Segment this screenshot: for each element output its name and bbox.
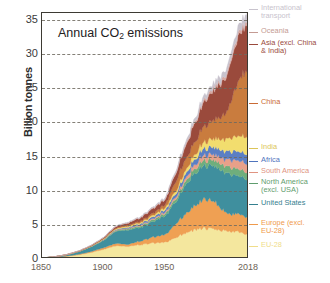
legend-item[interactable]: Oceania [249,27,289,35]
y-tick-label: 5 [12,218,38,230]
chart-title-subscript: 2 [119,31,124,41]
gridline [42,157,247,158]
legend-item[interactable]: China [249,98,280,106]
legend-item[interactable]: Asia (excl. China & India) [249,39,316,56]
y-tick-label: 30 [12,47,38,59]
legend-leader-line [249,246,258,247]
legend-item[interactable]: South America [249,167,309,175]
stacked-area-series [42,13,248,258]
chart-title-suffix: emissions [124,26,183,40]
legend-item[interactable]: United States [249,199,305,207]
chart-title: Annual CO2 emissions [58,26,183,40]
x-tick-label: 1900 [93,262,113,272]
legend-label: North America (excl. USA) [258,178,308,195]
y-tick-label: 20 [12,115,38,127]
gridline [42,88,247,89]
legend-leader-line [249,103,258,104]
x-tick-label: 1950 [154,262,174,272]
x-tick-label: 1850 [31,262,51,272]
legend-leader-line [249,172,258,173]
legend-label: Oceania [258,27,289,35]
legend-item[interactable]: Africa [249,156,280,164]
y-tick-label: 35 [12,13,38,25]
gridline [42,225,247,226]
legend-leader-line [249,44,258,45]
legend-item[interactable]: EU-28 [249,241,282,249]
legend-item[interactable]: North America (excl. USA) [249,178,308,195]
gridline [42,54,247,55]
gridline [42,20,247,21]
gridline [42,191,247,192]
legend-label: International transport [258,4,302,21]
legend-label: United States [258,199,305,207]
legend-label: India [258,143,277,151]
legend-leader-line [249,32,258,33]
legend-label: Europe (excl. EU-28) [258,219,305,236]
legend-leader-line [249,183,258,184]
legend-leader-line [249,161,258,162]
y-tick-label: 15 [12,150,38,162]
legend-label: Africa [258,156,280,164]
y-tick-label: 10 [12,184,38,196]
y-tick-label: 25 [12,81,38,93]
legend-label: Asia (excl. China & India) [258,39,316,56]
legend-leader-line [249,204,258,205]
co2-emissions-chart: Billion tonnes 05101520253035 Annual CO2… [0,0,330,283]
legend-leader-line [249,224,258,225]
legend-item[interactable]: International transport [249,4,302,21]
chart-title-text: Annual CO [58,26,119,40]
legend-leader-line [249,9,258,10]
legend-label: South America [258,167,309,175]
legend-label: China [258,98,280,106]
y-axis-ticks: 05101520253035 [8,0,38,283]
legend-label: EU-28 [258,241,282,249]
gridline [42,122,247,123]
chart-legend: International transportOceaniaAsia (excl… [249,0,330,283]
legend-item[interactable]: India [249,143,277,151]
axis-baseline [8,258,258,259]
legend-item[interactable]: Europe (excl. EU-28) [249,219,305,236]
legend-leader-line [249,148,258,149]
plot-area [41,12,248,258]
